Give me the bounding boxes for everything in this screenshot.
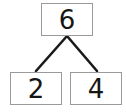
connector-line-left bbox=[36, 36, 67, 71]
part-number-value-left: 2 bbox=[28, 76, 45, 102]
connector-line-right bbox=[67, 36, 97, 71]
part-number-box-right[interactable]: 4 bbox=[70, 72, 122, 105]
whole-number-value: 6 bbox=[59, 7, 76, 33]
number-bond-diagram: 6 2 4 bbox=[0, 0, 126, 112]
whole-number-box[interactable]: 6 bbox=[41, 3, 93, 36]
part-number-box-left[interactable]: 2 bbox=[10, 72, 62, 105]
part-number-value-right: 4 bbox=[88, 76, 105, 102]
